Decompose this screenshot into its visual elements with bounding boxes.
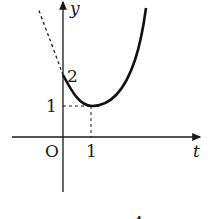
y-tick-1: 1: [46, 96, 57, 116]
function-graph: y t O 1 1 2 Δy: [0, 0, 211, 219]
origin-label: O: [45, 141, 59, 161]
curve-solid: [63, 8, 146, 106]
x-tick-1: 1: [86, 141, 97, 161]
caption-fragment: Δy: [131, 212, 154, 219]
y-tick-2: 2: [67, 66, 78, 86]
t-axis-label: t: [193, 141, 200, 161]
curve-dashed-extension: [38, 8, 63, 75]
y-axis-label: y: [69, 0, 80, 18]
